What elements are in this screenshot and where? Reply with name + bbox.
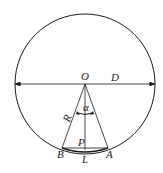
label-a: A [105,148,113,160]
label-alpha: α [83,101,89,113]
label-b: B [57,148,64,160]
circle-chord-diagram: O D R α P B L A [0,0,163,173]
label-o: O [81,70,89,82]
label-d: D [110,71,119,83]
label-r: R [60,113,74,125]
label-l: L [81,153,88,165]
angle-arrow-right-icon [90,111,94,115]
angle-arrow-left-icon [76,111,80,115]
label-p: P [77,136,85,148]
radius-oa [85,84,108,148]
